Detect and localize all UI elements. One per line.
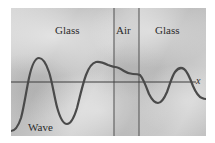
region-label-air: Air [116,25,131,36]
x-axis-label: x [196,76,200,86]
region-label-glass-left: Glass [55,25,79,36]
wave-label: Wave [28,122,53,133]
figure-root: Glass Air Glass Wave x [0,0,215,143]
region-label-glass-right: Glass [155,25,179,36]
